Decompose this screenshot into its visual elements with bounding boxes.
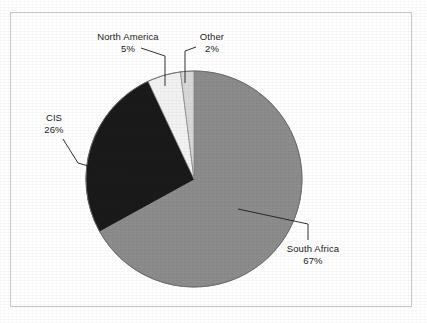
pie-label-other: Other 2%	[190, 31, 234, 54]
pie-label-cis-percent: 26%	[28, 124, 80, 136]
pie-label-south-africa: South Africa 67%	[268, 243, 358, 266]
pie-label-other-name: Other	[190, 31, 234, 43]
pie-label-north-america-percent: 5%	[86, 43, 170, 55]
pie-label-cis: CIS 26%	[28, 112, 80, 135]
pie-label-south-africa-name: South Africa	[268, 243, 358, 255]
pie-label-south-africa-percent: 67%	[268, 255, 358, 267]
pie-label-other-percent: 2%	[190, 43, 234, 55]
pie-chart-figure: North America 5% Other 2% CIS 26% South …	[0, 0, 427, 323]
pie-label-north-america: North America 5%	[86, 31, 170, 54]
pie-label-cis-name: CIS	[28, 112, 80, 124]
pie-label-north-america-name: North America	[86, 31, 170, 43]
